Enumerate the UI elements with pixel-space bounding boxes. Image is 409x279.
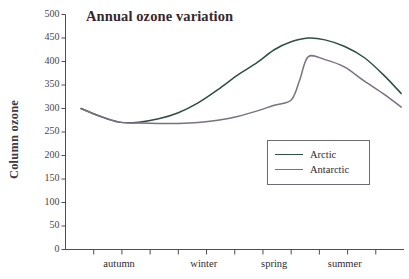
y-tick-label: 100 [28, 196, 60, 207]
x-tick-label-autumn: autumn [103, 258, 135, 269]
legend: ArcticAntarctic [267, 140, 370, 185]
y-axis [62, 15, 66, 250]
x-tick-label-spring: spring [261, 258, 287, 269]
y-tick-label: 350 [28, 78, 60, 89]
legend-item-antarctic[interactable]: Antarctic [268, 162, 369, 177]
legend-swatch-arctic-icon [275, 154, 303, 155]
x-tick-label-summer: summer [328, 258, 362, 269]
y-tick-label: 400 [28, 55, 60, 66]
x-tick-label-winter: winter [190, 258, 217, 269]
y-tick-label: 0 [28, 243, 60, 254]
series-line-antarctic [81, 56, 401, 124]
legend-item-arctic[interactable]: Arctic [268, 147, 369, 162]
data-series-group [81, 38, 401, 124]
y-tick-label: 500 [28, 8, 60, 19]
ozone-chart-figure: Annual ozone variation Column ozone 0501… [0, 0, 409, 279]
legend-swatch-antarctic-icon [275, 169, 303, 170]
y-tick-label: 300 [28, 102, 60, 113]
y-tick-label: 150 [28, 172, 60, 183]
legend-label: Arctic [310, 149, 336, 160]
y-tick-label: 250 [28, 125, 60, 136]
y-tick-label: 50 [28, 219, 60, 230]
series-line-arctic [81, 38, 401, 123]
y-tick-label: 200 [28, 149, 60, 160]
y-tick-label: 450 [28, 31, 60, 42]
x-axis [66, 250, 405, 255]
legend-label: Antarctic [310, 164, 349, 175]
